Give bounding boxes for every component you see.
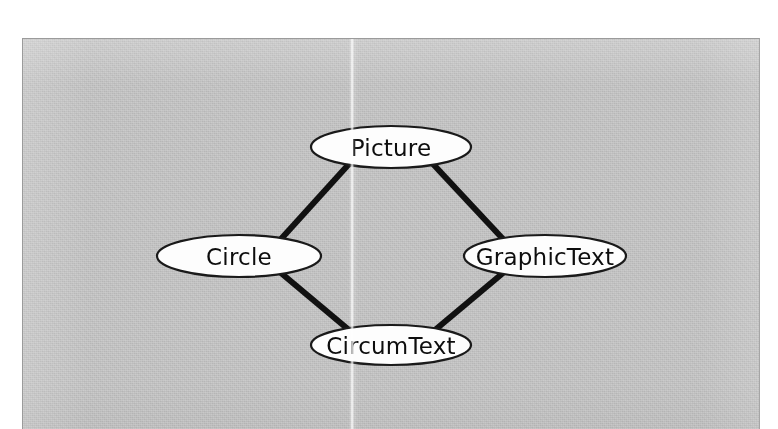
edge-circle-circumtext (281, 273, 349, 330)
node-circle-label: Circle (206, 244, 272, 270)
node-circle[interactable]: Circle (157, 235, 321, 277)
node-circumtext[interactable]: CircumText (311, 325, 471, 365)
node-picture-label: Picture (351, 135, 432, 161)
edge-picture-circle (281, 164, 349, 239)
node-circumtext-label: CircumText (326, 333, 456, 359)
edge-picture-graphictext (433, 164, 503, 239)
node-graphictext-label: GraphicText (476, 244, 614, 270)
edge-graphictext-circumtext (435, 273, 503, 330)
scanned-page: Picture Circle GraphicText CircumText (0, 0, 778, 429)
object-structure-graph: Picture Circle GraphicText CircumText (23, 39, 760, 429)
node-picture[interactable]: Picture (311, 126, 471, 168)
node-graphictext[interactable]: GraphicText (464, 235, 626, 277)
figure-panel: Picture Circle GraphicText CircumText (22, 38, 760, 429)
